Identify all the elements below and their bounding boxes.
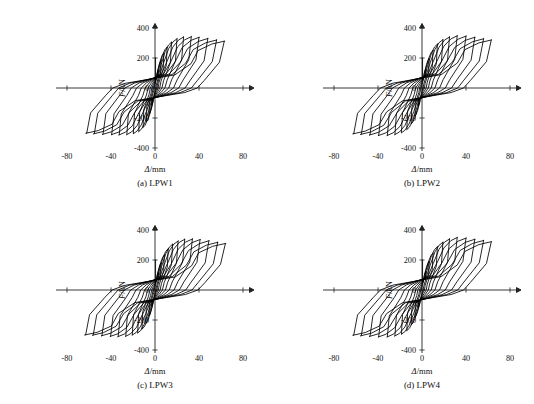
x-tick-label: 0	[420, 354, 424, 363]
y-axis-arrow	[153, 24, 158, 29]
y-axis-arrow	[420, 226, 425, 231]
y-axis-unit: /kN	[384, 78, 394, 92]
x-tick-label: -80	[62, 354, 73, 363]
x-tick-label: 80	[506, 152, 514, 161]
panel-caption: (a) LPW1	[137, 178, 173, 188]
y-axis-title: F/kN	[384, 280, 394, 300]
x-tick-label: 0	[153, 354, 157, 363]
y-axis-title: F/kN	[384, 78, 394, 98]
hysteresis-plot-lpw4: -80-4004080-400-2000200400F/kNΔ/mm(d) LP…	[267, 202, 534, 404]
x-axis-arrow	[517, 86, 522, 91]
x-tick-label: 80	[239, 354, 247, 363]
hysteresis-plot-lpw3: -80-4004080-400-2000200400F/kNΔ/mm(c) LP…	[0, 202, 267, 404]
x-tick-label: -40	[373, 152, 384, 161]
x-tick-label: -80	[329, 354, 340, 363]
hysteresis-plot-lpw2: -80-4004080-400-2000200400F/kNΔ/mm(b) LP…	[267, 0, 534, 202]
x-tick-label: -80	[329, 152, 340, 161]
y-axis-title: F/kN	[117, 78, 127, 98]
y-tick-label: 400	[404, 226, 416, 235]
hysteresis-figure: -80-4004080-400-2000200400F/kNΔ/mm(a) LP…	[0, 0, 534, 404]
y-tick-label: 400	[137, 24, 149, 33]
y-axis-unit: /kN	[117, 78, 127, 92]
chart-panel-lpw2: -80-4004080-400-2000200400F/kNΔ/mm(b) LP…	[267, 0, 534, 202]
x-tick-label: 80	[506, 354, 514, 363]
panel-caption: (c) LPW3	[137, 380, 173, 390]
y-tick-label: -400	[134, 144, 149, 153]
x-axis-unit: /mm	[150, 164, 166, 174]
hysteresis-plot-lpw1: -80-4004080-400-2000200400F/kNΔ/mm(a) LP…	[0, 0, 267, 202]
x-tick-label: -40	[106, 152, 117, 161]
y-axis-arrow	[420, 24, 425, 29]
x-tick-label: -40	[106, 354, 117, 363]
x-tick-label: -40	[373, 354, 384, 363]
y-axis-unit: /kN	[384, 280, 394, 294]
x-axis-arrow	[250, 288, 255, 293]
y-axis-title: F/kN	[117, 280, 127, 300]
x-tick-label: -80	[62, 152, 73, 161]
chart-panel-lpw3: -80-4004080-400-2000200400F/kNΔ/mm(c) LP…	[0, 202, 267, 404]
x-axis-title: Δ/mm	[144, 366, 166, 376]
chart-panel-lpw1: -80-4004080-400-2000200400F/kNΔ/mm(a) LP…	[0, 0, 267, 202]
y-axis-unit: /kN	[117, 280, 127, 294]
x-axis-unit: /mm	[417, 164, 433, 174]
panel-caption: (b) LPW2	[404, 178, 440, 188]
y-tick-label: 400	[137, 226, 149, 235]
y-tick-label: 200	[404, 256, 416, 265]
x-axis-title: Δ/mm	[411, 366, 433, 376]
y-tick-label: 200	[404, 54, 416, 63]
y-tick-label: -400	[401, 144, 416, 153]
x-tick-label: 80	[239, 152, 247, 161]
y-tick-label: -400	[401, 346, 416, 355]
x-tick-label: 0	[420, 152, 424, 161]
y-tick-label: 400	[404, 24, 416, 33]
x-tick-label: 40	[195, 152, 203, 161]
x-tick-label: 0	[153, 152, 157, 161]
y-axis-arrow	[153, 226, 158, 231]
x-axis-unit: /mm	[417, 366, 433, 376]
x-axis-unit: /mm	[150, 366, 166, 376]
x-tick-label: 40	[462, 152, 470, 161]
x-axis-title: Δ/mm	[144, 164, 166, 174]
x-axis-arrow	[250, 86, 255, 91]
y-tick-label: -400	[134, 346, 149, 355]
y-tick-label: 200	[137, 54, 149, 63]
chart-panel-lpw4: -80-4004080-400-2000200400F/kNΔ/mm(d) LP…	[267, 202, 534, 404]
x-axis-arrow	[517, 288, 522, 293]
y-tick-label: 200	[137, 256, 149, 265]
x-tick-label: 40	[195, 354, 203, 363]
panel-caption: (d) LPW4	[404, 380, 441, 390]
x-tick-label: 40	[462, 354, 470, 363]
x-axis-title: Δ/mm	[411, 164, 433, 174]
